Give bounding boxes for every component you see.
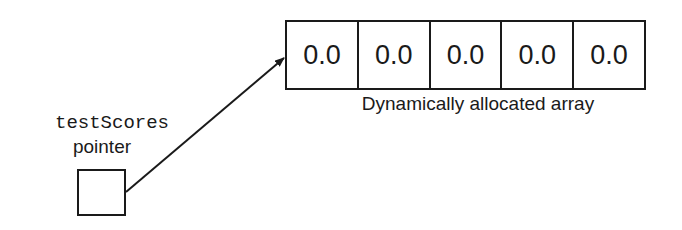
array-cell: 0.0 [359, 22, 431, 88]
array-cell: 0.0 [287, 22, 359, 88]
pointer-array-diagram: 0.0 0.0 0.0 0.0 0.0 Dynamically allocate… [0, 0, 682, 230]
pointer-variable-name: testScores [20, 112, 204, 134]
array-cell: 0.0 [574, 22, 644, 88]
array-caption: Dynamically allocated array [318, 93, 638, 115]
dynamic-array: 0.0 0.0 0.0 0.0 0.0 [285, 20, 646, 90]
array-cell: 0.0 [502, 22, 574, 88]
pointer-box [77, 169, 126, 216]
array-cell: 0.0 [431, 22, 503, 88]
pointer-label: pointer [50, 136, 154, 158]
